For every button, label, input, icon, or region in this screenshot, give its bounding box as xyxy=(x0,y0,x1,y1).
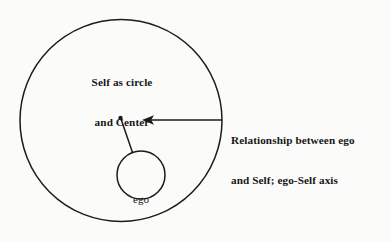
diagram-canvas: Self as circle and Center ego Relationsh… xyxy=(0,0,391,242)
self-label-line-2: and Center xyxy=(56,116,188,129)
self-label: Self as circle and Center xyxy=(56,50,188,156)
ego-label-text: ego xyxy=(119,193,163,206)
relationship-label-line-2: and Self; ego-Self axis xyxy=(231,174,387,187)
relationship-annotation-label: Relationship between ego and Self; ego-S… xyxy=(231,108,387,214)
ego-label: ego xyxy=(119,167,163,232)
self-label-line-1: Self as circle xyxy=(56,76,188,89)
relationship-label-line-1: Relationship between ego xyxy=(231,134,387,147)
